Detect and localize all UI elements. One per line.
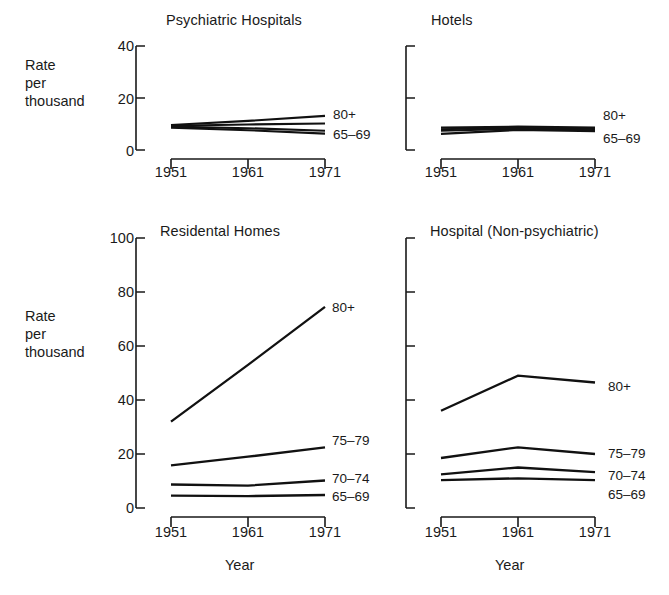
series-line-80plus-residental — [171, 307, 325, 422]
panel-residental-homes: Residental Homes 100 80 60 40 20 0 1951 … — [0, 210, 400, 595]
plot-svg-hotels — [400, 0, 669, 200]
series-line-80plus-hospital — [441, 376, 595, 411]
series-line-70-74-residental — [171, 481, 325, 486]
plot-svg-psychiatric — [0, 0, 400, 200]
plot-svg-residental — [0, 210, 400, 595]
series-line-70-74-hospital — [441, 468, 595, 475]
series-line-75-79-hospital — [441, 447, 595, 458]
plot-svg-hospital — [400, 210, 669, 595]
series-line-75-79-residental — [171, 447, 325, 465]
series-line-65-69-hospital — [441, 478, 595, 480]
panel-psychiatric-hospitals: Psychiatric Hospitals 40 20 0 1951 1961 … — [0, 0, 400, 200]
series-line-65-69-residental — [171, 495, 325, 496]
panel-hotels: Hotels 1951 1961 1971 80+ 65–69 — [400, 0, 669, 200]
panel-hospital-non-psychiatric: Hospital (Non-psychiatric) 1951 1961 197… — [400, 210, 669, 595]
